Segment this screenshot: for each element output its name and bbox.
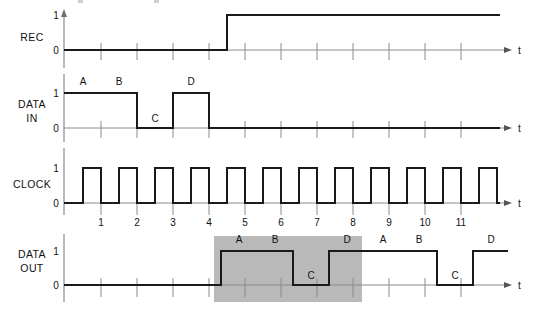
data-out-time-arrow-icon <box>504 282 512 288</box>
data-out-bit-a-2: A <box>380 234 387 245</box>
timing-diagram-canvas: REC 1 0 t <box>0 0 533 311</box>
level-label-rec-high: 1 <box>53 10 59 21</box>
waveform-clock <box>64 168 500 203</box>
clock-tick-number-10: 10 <box>419 217 431 228</box>
waveform-rec <box>64 15 500 50</box>
data-out-bit-c-1: C <box>307 270 314 281</box>
page-crumb-marks <box>78 0 159 3</box>
data-in-bit-b: B <box>116 76 123 87</box>
clock-tick-number-1: 1 <box>98 217 104 228</box>
data-in-time-axis-label: t <box>518 123 521 134</box>
data-out-bit-b-2: B <box>416 234 423 245</box>
data-out-tick-marks <box>101 278 461 297</box>
data-out-bit-d-1: D <box>343 234 350 245</box>
clock-tick-number-3: 3 <box>170 217 176 228</box>
data-out-bit-a-1: A <box>236 234 243 245</box>
signal-label-data-in-line1: DATA <box>18 98 46 110</box>
clock-tick-number-9: 9 <box>386 217 392 228</box>
level-label-data-in-low: 0 <box>53 123 59 134</box>
data-out-highlight-region <box>214 236 362 302</box>
clock-tick-number-5: 5 <box>242 217 248 228</box>
signal-label-data-out-line2: OUT <box>20 262 44 274</box>
clock-tick-numbers: 1 2 3 4 5 6 7 8 9 10 11 <box>98 217 466 228</box>
timing-diagram: REC 1 0 t <box>0 0 533 311</box>
clock-time-axis-label: t <box>518 198 521 209</box>
rec-axis-arrow-icon <box>61 9 67 17</box>
clock-tick-number-11: 11 <box>456 217 467 228</box>
clock-time-arrow-icon <box>504 200 512 206</box>
signal-label-rec: REC <box>20 31 43 43</box>
data-out-bit-c-2: C <box>451 270 458 281</box>
signal-label-data-in-line2: IN <box>26 112 37 124</box>
data-out-bit-d-2: D <box>487 234 494 245</box>
data-out-bit-b-1: B <box>272 234 279 245</box>
data-in-bit-d: D <box>187 76 194 87</box>
clock-tick-number-7: 7 <box>314 217 320 228</box>
level-label-data-out-high: 1 <box>53 246 59 257</box>
signal-row-rec: REC 1 0 t <box>20 9 521 68</box>
signal-label-data-out-line1: DATA <box>18 248 46 260</box>
waveform-data-in <box>64 93 500 128</box>
clock-tick-number-4: 4 <box>206 217 212 228</box>
clock-tick-number-2: 2 <box>134 217 140 228</box>
data-in-bit-c: C <box>151 113 158 124</box>
data-out-time-axis-label: t <box>518 280 521 291</box>
signal-row-clock: CLOCK 1 0 t 1 <box>13 148 521 228</box>
rec-time-arrow-icon <box>504 47 512 53</box>
level-label-data-in-high: 1 <box>53 88 59 99</box>
level-label-data-out-low: 0 <box>53 280 59 291</box>
signal-label-clock: CLOCK <box>13 178 51 190</box>
data-in-time-arrow-icon <box>504 125 512 131</box>
rec-tick-marks <box>101 43 461 60</box>
rec-time-axis-label: t <box>518 45 521 56</box>
clock-tick-number-8: 8 <box>350 217 356 228</box>
level-label-clock-low: 0 <box>53 198 59 209</box>
level-label-clock-high: 1 <box>53 163 59 174</box>
signal-row-data-out: DATA OUT 1 0 t <box>18 234 521 302</box>
clock-tick-number-6: 6 <box>278 217 284 228</box>
signal-row-data-in: DATA IN 1 0 t <box>18 74 521 142</box>
data-in-bit-a: A <box>80 76 87 87</box>
level-label-rec-low: 0 <box>53 45 59 56</box>
